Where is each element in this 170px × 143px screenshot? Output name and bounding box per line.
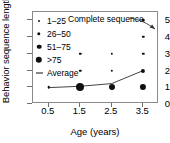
x-axis-label: Age (years) — [32, 126, 158, 137]
legend-item: 51–75 — [36, 40, 92, 53]
data-point — [76, 83, 84, 91]
data-point — [109, 84, 115, 90]
legend-item-label: 1–25 — [47, 16, 66, 26]
legend-marker-icon — [37, 44, 42, 49]
legend-item-label: 51–75 — [47, 42, 71, 52]
data-point — [47, 86, 50, 89]
chart-figure: Behavior sequence length 0 1 2 3 4 5 0.5… — [0, 0, 170, 143]
legend-item-label: Average — [47, 68, 79, 78]
legend-item: Average — [36, 66, 92, 79]
legend-item: 26–50 — [36, 27, 92, 40]
plot-area: 1–25 26–50 51–75 >75 Average Complete se… — [32, 11, 158, 103]
legend-marker-icon — [38, 20, 40, 22]
y-axis-label: Behavior sequence length — [0, 0, 12, 121]
legend-marker-icon — [36, 56, 42, 62]
y-tick-mark — [27, 103, 32, 104]
legend-item-label: >75 — [47, 55, 61, 65]
legend-dash-icon — [36, 72, 43, 73]
legend-item: >75 — [36, 53, 92, 66]
annotation-arrow-icon — [128, 16, 162, 34]
legend-item-label: 26–50 — [47, 29, 71, 39]
legend-marker-icon — [37, 32, 40, 35]
